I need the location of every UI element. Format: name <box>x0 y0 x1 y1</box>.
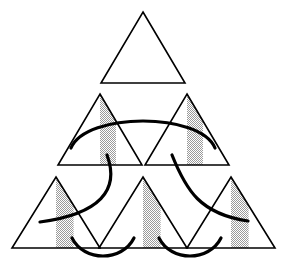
figure-canvas <box>0 0 286 266</box>
figure-svg <box>0 0 286 266</box>
